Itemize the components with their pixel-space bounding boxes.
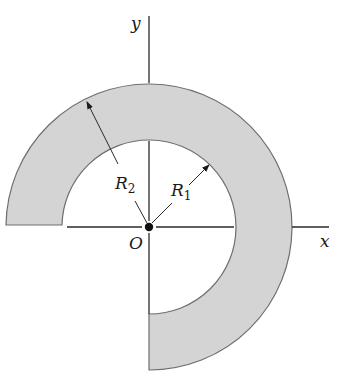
y-axis-label: y <box>130 13 141 33</box>
annulus-diagram: y x O R2 R1 <box>0 0 342 382</box>
x-axis-label: x <box>320 231 330 251</box>
r1-arrow <box>189 165 209 185</box>
origin-label: O <box>129 233 143 253</box>
r2-label: R2 <box>114 173 135 196</box>
r2-leader-lower <box>135 201 147 223</box>
r1-label: R1 <box>170 180 191 203</box>
r1-leader-lower <box>152 203 172 223</box>
origin-point <box>145 223 153 231</box>
